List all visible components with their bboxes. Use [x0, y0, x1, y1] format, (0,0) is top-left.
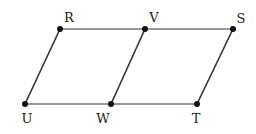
segment-ts [197, 29, 233, 104]
points-group [22, 26, 236, 107]
label-u: U [22, 111, 33, 126]
point-s [230, 26, 236, 32]
point-r [57, 26, 63, 32]
point-u [22, 101, 28, 107]
label-t: T [192, 111, 201, 126]
label-w: W [96, 111, 110, 126]
segments-group [25, 29, 233, 104]
labels-group: RVSUWT [22, 10, 246, 126]
label-v: V [148, 10, 159, 25]
point-v [142, 26, 148, 32]
segment-ur [25, 29, 60, 104]
point-t [194, 101, 200, 107]
label-s: S [237, 11, 246, 26]
label-r: R [64, 10, 75, 25]
geometry-diagram: RVSUWT [0, 0, 256, 134]
point-w [108, 101, 114, 107]
segment-wv [111, 29, 145, 104]
